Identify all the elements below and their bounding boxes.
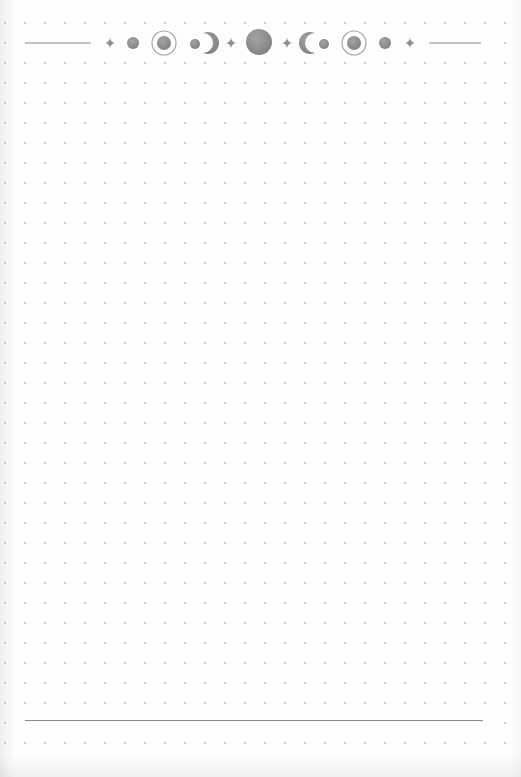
grid-dot: [224, 142, 226, 144]
grid-dot: [504, 702, 506, 704]
grid-dot: [4, 182, 6, 184]
grid-dot: [484, 582, 486, 584]
grid-dot: [184, 262, 186, 264]
grid-dot: [424, 162, 426, 164]
grid-dot: [264, 362, 266, 364]
grid-dot: [384, 122, 386, 124]
grid-dot: [304, 702, 306, 704]
grid-dot: [464, 322, 466, 324]
grid-dot: [284, 682, 286, 684]
sparkle-icon: [105, 38, 115, 48]
grid-dot: [184, 642, 186, 644]
grid-dot: [284, 222, 286, 224]
grid-dot: [364, 642, 366, 644]
grid-dot: [504, 82, 506, 84]
grid-dot: [264, 82, 266, 84]
grid-dot: [4, 102, 6, 104]
grid-dot: [164, 702, 166, 704]
grid-dot: [344, 482, 346, 484]
grid-dot: [404, 662, 406, 664]
grid-dot: [184, 322, 186, 324]
grid-dot: [364, 282, 366, 284]
grid-dot: [24, 382, 26, 384]
grid-dot: [364, 362, 366, 364]
grid-dot: [64, 122, 66, 124]
grid-dot: [264, 402, 266, 404]
grid-dot: [244, 162, 246, 164]
grid-dot: [64, 302, 66, 304]
grid-dot: [84, 502, 86, 504]
grid-dot: [464, 182, 466, 184]
grid-dot: [124, 242, 126, 244]
grid-dot: [404, 102, 406, 104]
grid-dot: [224, 122, 226, 124]
grid-dot: [444, 202, 446, 204]
grid-dot: [24, 342, 26, 344]
grid-dot: [204, 522, 206, 524]
grid-dot: [324, 482, 326, 484]
grid-dot: [164, 82, 166, 84]
grid-dot: [244, 322, 246, 324]
grid-dot: [424, 702, 426, 704]
grid-dot: [424, 482, 426, 484]
grid-dot: [364, 542, 366, 544]
grid-dot: [404, 282, 406, 284]
grid-dot: [44, 302, 46, 304]
grid-dot: [104, 162, 106, 164]
grid-dot: [324, 502, 326, 504]
grid-dot: [244, 122, 246, 124]
grid-dot: [464, 702, 466, 704]
grid-dot: [24, 282, 26, 284]
grid-dot: [124, 662, 126, 664]
grid-dot: [344, 442, 346, 444]
grid-dot: [324, 162, 326, 164]
grid-dot: [224, 302, 226, 304]
grid-dot: [384, 622, 386, 624]
grid-dot: [484, 602, 486, 604]
grid-dot: [484, 82, 486, 84]
grid-dot: [4, 602, 6, 604]
grid-dot: [124, 162, 126, 164]
grid-dot: [44, 242, 46, 244]
grid-dot: [344, 622, 346, 624]
grid-dot: [424, 582, 426, 584]
sparkle-icon: [226, 38, 236, 48]
grid-dot: [484, 462, 486, 464]
grid-dot: [4, 162, 6, 164]
grid-dot: [444, 502, 446, 504]
grid-dot: [224, 162, 226, 164]
grid-dot: [104, 322, 106, 324]
grid-dot: [424, 542, 426, 544]
grid-dot: [444, 162, 446, 164]
grid-dot: [484, 322, 486, 324]
grid-dot: [124, 702, 126, 704]
grid-dot: [444, 362, 446, 364]
grid-dot: [444, 462, 446, 464]
grid-dot: [204, 402, 206, 404]
grid-dot: [84, 242, 86, 244]
grid-dot: [424, 282, 426, 284]
grid-dot: [224, 662, 226, 664]
grid-dot: [424, 522, 426, 524]
grid-dot: [424, 442, 426, 444]
grid-dot: [444, 342, 446, 344]
grid-dot: [144, 122, 146, 124]
grid-dot: [324, 562, 326, 564]
grid-dot: [124, 102, 126, 104]
grid-dot: [104, 222, 106, 224]
grid-dot: [224, 322, 226, 324]
grid-dot: [444, 242, 446, 244]
grid-dot: [484, 422, 486, 424]
grid-dot: [344, 462, 346, 464]
grid-dot: [464, 502, 466, 504]
grid-dot: [244, 262, 246, 264]
grid-dot: [224, 682, 226, 684]
grid-dot: [344, 142, 346, 144]
grid-dot: [404, 142, 406, 144]
grid-dot: [424, 562, 426, 564]
grid-dot: [204, 482, 206, 484]
grid-dot: [284, 202, 286, 204]
grid-dot: [284, 542, 286, 544]
grid-dot: [24, 542, 26, 544]
grid-dot: [384, 102, 386, 104]
